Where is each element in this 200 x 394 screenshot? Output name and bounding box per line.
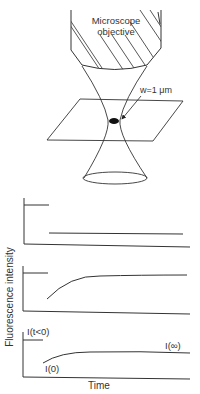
microscope-objective (58, 0, 175, 88)
objective-label-line2: objective (81, 27, 151, 37)
cone-base (83, 172, 147, 184)
focal-spot (109, 118, 119, 124)
objective-label-line1: Microscope (81, 16, 151, 26)
focal-spot-label: w=1 μm (140, 86, 172, 95)
y-axis-label: Fluorescence intensity (5, 247, 15, 347)
label-i-infinity: I(∞) (165, 341, 181, 351)
x-axis-label: Time (88, 381, 110, 391)
plot-panel-1 (24, 198, 190, 247)
plot-panel-2 (23, 266, 190, 314)
label-i-before: I(t<0) (27, 327, 49, 337)
label-i-zero: I(0) (45, 364, 59, 374)
